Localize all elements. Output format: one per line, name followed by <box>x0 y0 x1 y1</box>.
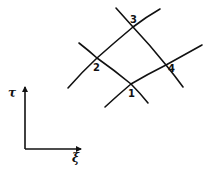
tau-line-left <box>79 43 148 103</box>
grid-cell-diagram: 1 2 3 4 τ ξ <box>0 0 209 169</box>
tau-axis-label: τ <box>8 86 17 100</box>
node-label-2: 2 <box>93 62 100 73</box>
node-label-1: 1 <box>128 88 135 99</box>
xi-axis-label: ξ <box>72 151 80 165</box>
tau-line-right <box>116 8 183 87</box>
xi-line-lower <box>105 45 202 107</box>
node-label-3: 3 <box>130 14 137 25</box>
node-label-4: 4 <box>168 63 175 74</box>
coordinate-axes <box>25 87 81 149</box>
